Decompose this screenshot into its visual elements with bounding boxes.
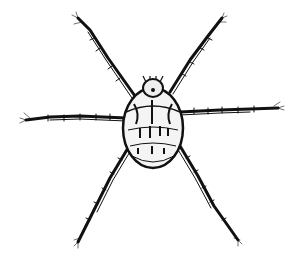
leg-upper-right (170, 13, 227, 94)
mite-drawing (0, 0, 298, 267)
mite-head (143, 76, 163, 97)
mite-body (123, 88, 183, 168)
leg-mid-left (20, 113, 126, 123)
mite-illustration (0, 0, 298, 267)
leg-lower-right (177, 146, 242, 246)
leg-upper-left (72, 12, 135, 98)
leg-lower-left (74, 148, 131, 248)
leg-mid-right (180, 102, 284, 115)
